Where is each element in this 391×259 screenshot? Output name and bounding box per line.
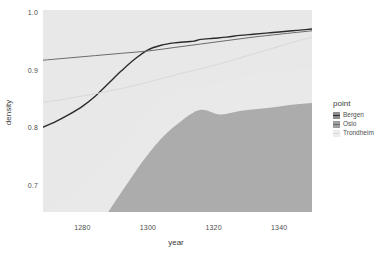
y-axis-title: density [4,93,13,133]
legend-item-bergen[interactable]: Bergen [333,111,389,119]
legend-item-trondheim[interactable]: Trondheim [333,129,389,137]
x-tick-label: 1340 [259,224,299,231]
y-tick-label: 1.0 [16,9,38,16]
chart-root: 1.0 0.9 0.8 0.7 density 1280 1300 1320 1… [0,0,391,259]
legend-label-oslo: Oslo [343,120,356,128]
x-tick-label: 1300 [128,224,168,231]
legend-item-oslo[interactable]: Oslo [333,120,389,128]
legend: point Bergen Oslo Trondheim [333,99,389,138]
legend-label-trondheim: Trondheim [343,129,374,137]
y-tick-label: 0.7 [16,182,38,189]
legend-key-bergen [333,112,340,119]
x-axis-title: year [136,238,216,247]
legend-key-trondheim [333,130,340,137]
y-tick-label: 0.9 [16,67,38,74]
plot-panel [43,10,312,212]
x-tick-label: 1320 [194,224,234,231]
legend-title: point [333,99,389,108]
y-tick-label: 0.8 [16,124,38,131]
x-tick-label: 1280 [62,224,102,231]
legend-key-oslo [333,121,340,128]
plot-canvas [43,10,312,212]
legend-label-bergen: Bergen [343,111,364,119]
